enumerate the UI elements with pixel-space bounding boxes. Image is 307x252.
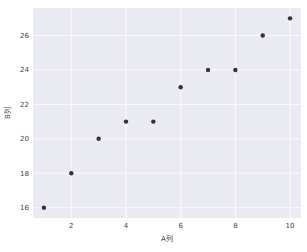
x-tick-label: 2 — [69, 222, 73, 230]
x-tick-label: 8 — [233, 222, 237, 230]
y-tick-label: 18 — [20, 170, 29, 178]
x-axis-label: A列 — [161, 234, 173, 243]
data-point — [42, 205, 46, 209]
data-point — [178, 85, 182, 89]
plot-area — [33, 8, 301, 218]
x-tick-label: 6 — [178, 222, 183, 230]
x-tick-label: 4 — [124, 222, 129, 230]
y-axis-label: B列 — [3, 107, 12, 119]
data-point — [233, 68, 237, 72]
data-point — [151, 119, 155, 123]
data-point — [261, 33, 265, 37]
y-tick-label: 24 — [20, 66, 29, 74]
scatter-chart: 246810 161820222426 A列 B列 — [0, 0, 307, 252]
data-point — [206, 68, 210, 72]
data-point — [124, 119, 128, 123]
y-tick-label: 26 — [20, 32, 29, 40]
data-point — [288, 16, 292, 20]
y-tick-labels: 161820222426 — [20, 32, 29, 212]
y-tick-label: 20 — [20, 135, 29, 143]
data-point — [69, 171, 73, 175]
y-tick-label: 16 — [20, 204, 29, 212]
x-tick-labels: 246810 — [69, 222, 294, 230]
x-tick-label: 10 — [286, 222, 295, 230]
y-tick-label: 22 — [20, 101, 29, 109]
data-point — [96, 137, 100, 141]
